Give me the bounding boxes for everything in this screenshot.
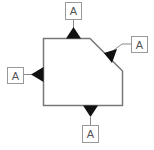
right-leader-line bbox=[114, 44, 131, 50]
right-callout: A bbox=[104, 37, 148, 64]
right-label: A bbox=[136, 39, 144, 51]
left-triangle-marker-icon bbox=[31, 67, 44, 82]
top-callout: A bbox=[66, 3, 82, 39]
diagram-canvas: A A A A bbox=[0, 0, 154, 150]
top-triangle-marker-icon bbox=[66, 27, 81, 39]
chamfered-shape-outline bbox=[44, 39, 123, 106]
bottom-triangle-marker-icon bbox=[83, 106, 98, 118]
left-callout: A bbox=[8, 67, 44, 84]
bottom-label: A bbox=[87, 128, 95, 140]
top-label: A bbox=[70, 5, 78, 17]
bottom-callout: A bbox=[83, 106, 99, 143]
left-label: A bbox=[12, 70, 20, 82]
